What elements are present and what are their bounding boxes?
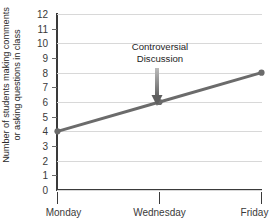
x-axis-tick-label: Friday (241, 207, 269, 218)
y-axis-tick-label: 0 (42, 185, 48, 196)
y-axis-tick-label: 4 (42, 126, 48, 137)
y-axis-tick-label: 7 (42, 82, 48, 93)
x-axis-tick (261, 192, 262, 204)
line-chart: Number of students making comments or as… (0, 0, 269, 218)
x-axis-tick-label: Monday (46, 207, 82, 218)
gridline (57, 190, 262, 191)
annotation-controversial-discussion: Controversial Discussion (108, 41, 212, 65)
y-axis-tick-label: 11 (38, 23, 48, 34)
y-axis-title-line-2: or asking questions in class (12, 0, 23, 185)
y-axis-tick-label: 5 (42, 111, 48, 122)
y-axis-title: Number of students making comments or as… (1, 0, 35, 185)
data-point (54, 128, 60, 134)
x-axis-tick (159, 192, 160, 204)
x-axis-tick-label: Wednesday (133, 207, 186, 218)
data-point (258, 70, 264, 76)
down-arrow-icon (150, 68, 164, 106)
y-axis-tick-label: 3 (42, 141, 48, 152)
y-axis-tick-label: 2 (42, 155, 48, 166)
y-axis-tick-label: 8 (42, 67, 48, 78)
y-axis-tick-label: 12 (37, 9, 48, 20)
x-axis-tick (57, 192, 58, 204)
y-axis-title-line-1: Number of students making comments (1, 0, 12, 185)
annotation-line-2: Discussion (108, 53, 212, 65)
annotation-line-1: Controversial (108, 41, 212, 53)
y-axis-tick-label: 10 (37, 38, 48, 49)
y-axis-tick-label: 1 (42, 170, 48, 181)
y-axis-tick-label: 6 (42, 97, 48, 108)
y-axis-tick-label: 9 (42, 53, 48, 64)
